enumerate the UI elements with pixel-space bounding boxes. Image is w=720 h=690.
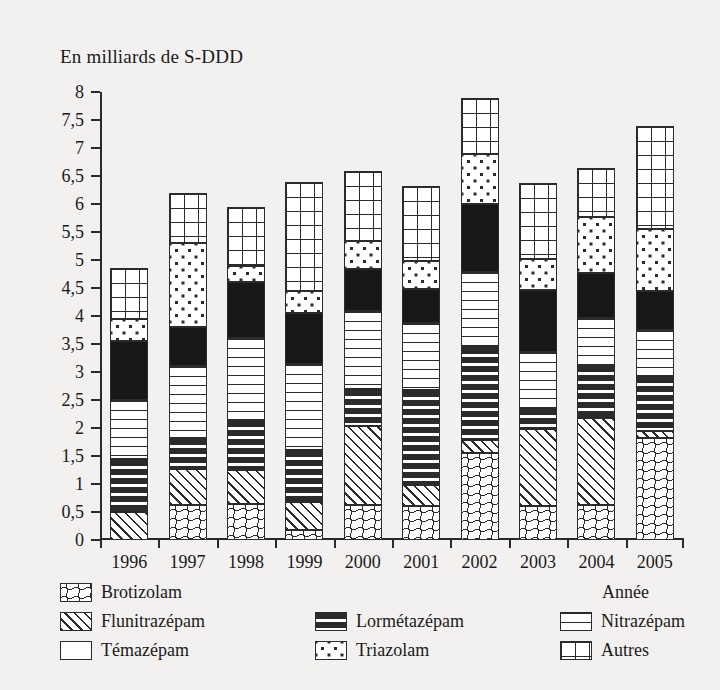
bar-segment-tmazpam [285, 313, 323, 363]
x-axis-tick [682, 540, 684, 548]
bar-segment-lormtazpam [519, 408, 557, 429]
bar-segment-brotizolam [402, 506, 440, 540]
bar-2004 [577, 168, 615, 540]
y-axis-tick-label: 0,5 [24, 503, 84, 521]
legend-item-tmazpam: Témazépam [60, 640, 189, 661]
legend-label: Lormétazépam [356, 611, 464, 632]
legend-item-triazolam: Triazolam [315, 640, 429, 661]
bar-segment-tmazpam [402, 289, 440, 323]
bar-segment-triazolam [636, 229, 674, 291]
y-axis-tick-label: 2 [24, 419, 84, 437]
y-axis-tick [91, 287, 100, 289]
bar-1998 [227, 207, 265, 540]
chart-legend: BrotizolamFlunitrazépamTémazépamLormétaz… [60, 582, 700, 668]
x-axis-tick [626, 540, 628, 548]
bar-segment-flunitrazpam [519, 429, 557, 506]
bar-segment-nitrazpam [577, 318, 615, 366]
legend-item-lormtazpam: Lormétazépam [315, 611, 464, 632]
bar-segment-triazolam [227, 266, 265, 283]
y-axis-tick-label: 1 [24, 475, 84, 493]
bar-segment-tmazpam [519, 290, 557, 352]
legend-swatch-diagonal-hatch-icon [60, 612, 92, 631]
bar-segment-triazolam [461, 154, 499, 204]
bar-segment-lormtazpam [110, 459, 148, 512]
legend-label: Brotizolam [101, 582, 182, 603]
x-axis-tick-label-2001: 2001 [391, 552, 451, 573]
bar-segment-triazolam [344, 241, 382, 269]
bar-segment-lormtazpam [636, 376, 674, 431]
bar-segment-autres [636, 126, 674, 230]
x-axis-tick-label-2002: 2002 [450, 552, 510, 573]
bar-segment-lormtazpam [344, 389, 382, 425]
legend-swatch-horizontal-lines-icon [560, 612, 592, 631]
bar-segment-tmazpam [169, 327, 207, 366]
bar-2001 [402, 186, 440, 540]
bar-segment-flunitrazpam [461, 440, 499, 453]
legend-swatch-grid-icon [560, 641, 592, 660]
y-axis-tick-label: 4,5 [24, 279, 84, 297]
bar-segment-triazolam [169, 243, 207, 327]
y-axis-tick-label: 6,5 [24, 167, 84, 185]
bar-segment-tmazpam [577, 273, 615, 318]
plot-area: 87,576,565,554,543,532,521,510,50 199619… [100, 92, 684, 540]
x-axis-tick [217, 540, 219, 548]
bar-segment-triazolam [402, 261, 440, 289]
bar-segment-brotizolam [519, 506, 557, 540]
bar-segment-nitrazpam [227, 338, 265, 419]
bar-segment-lormtazpam [285, 450, 323, 502]
y-axis-tick-label: 3,5 [24, 335, 84, 353]
legend-label: Autres [601, 640, 649, 661]
bar-segment-brotizolam [169, 505, 207, 540]
bar-segment-autres [519, 183, 557, 260]
bar-segment-brotizolam [577, 505, 615, 540]
y-axis-tick [91, 343, 100, 345]
y-axis-tick [91, 371, 100, 373]
bar-segment-autres [285, 182, 323, 291]
legend-swatch-solid-black-icon [60, 641, 92, 660]
bar-segment-lormtazpam [577, 365, 615, 418]
x-axis-tick [450, 540, 452, 548]
bar-segment-flunitrazpam [636, 431, 674, 438]
bar-segment-nitrazpam [169, 366, 207, 438]
y-axis-line [100, 92, 102, 540]
bar-segment-autres [110, 268, 148, 318]
bar-segment-flunitrazpam [285, 502, 323, 530]
y-axis-tick-label: 3 [24, 363, 84, 381]
x-axis-tick-label-2000: 2000 [333, 552, 393, 573]
x-axis-tick [567, 540, 569, 548]
legend-item-autres: Autres [560, 640, 649, 661]
bar-segment-autres [169, 193, 207, 243]
bar-segment-autres [227, 207, 265, 266]
bar-segment-nitrazpam [519, 352, 557, 408]
y-axis-tick-label: 4 [24, 307, 84, 325]
y-axis-tick [91, 399, 100, 401]
bar-1997 [169, 193, 207, 540]
y-axis-tick [91, 91, 100, 93]
x-axis-tick-label-1999: 1999 [274, 552, 334, 573]
y-axis-tick [91, 511, 100, 513]
y-axis-tick-label: 8 [24, 83, 84, 101]
bar-segment-tmazpam [227, 282, 265, 338]
bar-2000 [344, 171, 382, 540]
bar-segment-nitrazpam [461, 272, 499, 346]
bar-segment-flunitrazpam [169, 469, 207, 505]
y-axis-tick-label: 7 [24, 139, 84, 157]
bar-segment-tmazpam [110, 341, 148, 400]
x-axis-tick [158, 540, 160, 548]
y-axis-tick [91, 259, 100, 261]
bar-segment-brotizolam [636, 438, 674, 540]
x-axis-tick [334, 540, 336, 548]
x-axis-tick-label-2004: 2004 [566, 552, 626, 573]
bar-segment-triazolam [285, 291, 323, 313]
bar-segment-tmazpam [344, 269, 382, 311]
y-axis-tick-label: 2,5 [24, 391, 84, 409]
x-axis-tick [275, 540, 277, 548]
bar-segment-brotizolam [227, 504, 265, 540]
bar-segment-flunitrazpam [402, 485, 440, 506]
y-axis-tick [91, 119, 100, 121]
bar-2002 [461, 98, 499, 540]
bar-segment-lormtazpam [402, 390, 440, 485]
y-axis-tick [91, 175, 100, 177]
x-axis-tick-label-2005: 2005 [625, 552, 685, 573]
y-axis-tick-label: 6 [24, 195, 84, 213]
